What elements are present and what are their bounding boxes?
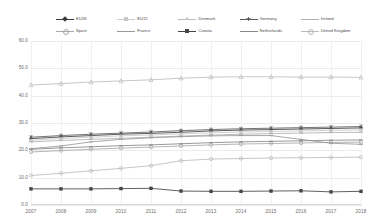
legend-swatch-icon <box>240 16 258 23</box>
legend-swatch-icon <box>301 28 319 35</box>
legend-swatch-icon <box>178 28 196 35</box>
data-point-square <box>359 190 362 193</box>
legend-label: EU28 <box>76 16 86 22</box>
series-line <box>31 140 361 149</box>
x-axis-tick-label: 2014 <box>224 209 258 214</box>
legend-swatch-icon <box>56 16 74 23</box>
x-axis-tick-label: 2008 <box>44 209 78 214</box>
x-axis-tick-label: 2007 <box>14 209 48 214</box>
data-point-square <box>29 187 32 190</box>
legend-label: Croatia <box>198 28 212 34</box>
data-point-square <box>89 187 92 190</box>
x-axis-tick-label: 2011 <box>134 209 168 214</box>
x-axis-tick-label: 2016 <box>284 209 318 214</box>
x-axis-tick-label: 2015 <box>254 209 288 214</box>
legend-swatch-icon <box>56 28 74 35</box>
x-axis-tick-label: 2010 <box>104 209 138 214</box>
y-axis-tick-label: 10.0 <box>2 175 28 180</box>
legend-label: Denmark <box>198 16 215 22</box>
data-point-square <box>269 189 272 192</box>
legend-swatch-icon <box>178 16 196 23</box>
legend-label: Spain <box>76 28 87 34</box>
data-point-square <box>149 187 152 190</box>
legend-swatch-icon <box>117 16 135 23</box>
series-denmark <box>29 75 363 87</box>
chart-legend: EU28EU15DenmarkGermanyIrelandSpainFrance… <box>56 13 362 37</box>
data-point-square <box>239 190 242 193</box>
series-line <box>31 77 361 85</box>
gridline-y <box>31 205 361 206</box>
legend-item-france[interactable]: France <box>117 25 178 37</box>
data-point-square <box>329 190 332 193</box>
legend-item-denmark[interactable]: Denmark <box>178 13 239 25</box>
legend-label: EU15 <box>137 16 147 22</box>
series-united-kingdom <box>29 155 362 177</box>
legend-item-spain[interactable]: Spain <box>56 25 117 37</box>
series-croatia <box>29 187 362 194</box>
series-line <box>31 188 361 192</box>
x-axis-tick-label: 2012 <box>164 209 198 214</box>
legend-label: Germany <box>260 16 277 22</box>
y-axis-tick-label: 60.0 <box>2 38 28 43</box>
legend-item-netherlands[interactable]: Netherlands <box>240 25 301 37</box>
legend-label: Ireland <box>321 16 334 22</box>
legend-item-ireland[interactable]: Ireland <box>301 13 362 25</box>
legend-label: United Kingdom <box>321 28 351 34</box>
series-layer <box>31 41 361 205</box>
legend-item-eu28[interactable]: EU28 <box>56 13 117 25</box>
data-point-square <box>179 189 182 192</box>
x-axis-tick-label: 2009 <box>74 209 108 214</box>
x-axis-tick-label: 2013 <box>194 209 228 214</box>
y-axis-tick-label: 0.0 <box>2 202 28 207</box>
gridline-x <box>361 41 362 205</box>
legend-swatch-icon <box>240 28 258 35</box>
data-point-square <box>119 187 122 190</box>
line-chart: EU28EU15DenmarkGermanyIrelandSpainFrance… <box>0 0 367 222</box>
data-point-square <box>299 189 302 192</box>
data-point-square <box>209 190 212 193</box>
plot-area: 0.010.020.030.040.050.060.0 200720082009… <box>31 41 361 205</box>
series-line <box>31 157 361 175</box>
y-axis-tick-label: 30.0 <box>2 120 28 125</box>
legend-item-eu15[interactable]: EU15 <box>117 13 178 25</box>
legend-label: France <box>137 28 150 34</box>
x-axis-tick-label: 2018 <box>344 209 367 214</box>
y-axis-tick-label: 40.0 <box>2 93 28 98</box>
legend-item-united-kingdom[interactable]: United Kingdom <box>301 25 362 37</box>
y-axis-tick-label: 20.0 <box>2 147 28 152</box>
data-point-square <box>59 187 62 190</box>
legend-label: Netherlands <box>260 28 283 34</box>
legend-swatch-icon <box>301 16 319 23</box>
y-axis-tick-label: 50.0 <box>2 65 28 70</box>
legend-item-germany[interactable]: Germany <box>240 13 301 25</box>
x-axis-tick-label: 2017 <box>314 209 348 214</box>
legend-item-croatia[interactable]: Croatia <box>178 25 239 37</box>
legend-swatch-icon <box>117 28 135 35</box>
